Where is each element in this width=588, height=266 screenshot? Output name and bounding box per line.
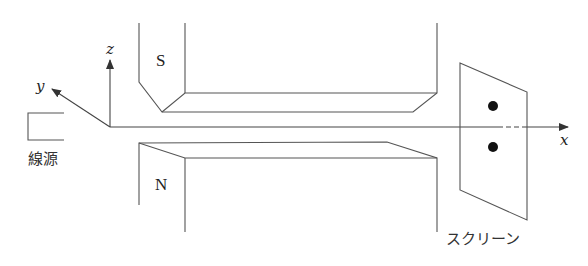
magnet-n-pole: [139, 142, 437, 232]
radiation-source: [28, 113, 64, 140]
magnet-deflection-diagram: z y x S N 線源 スクリーン: [0, 0, 588, 266]
s-pole-label: S: [156, 51, 165, 70]
z-axis-label: z: [105, 40, 114, 58]
n-pole-label: N: [155, 175, 167, 194]
x-axis-label: x: [560, 131, 569, 149]
screen: [460, 63, 527, 220]
y-axis-label: y: [35, 77, 45, 95]
screen-label: スクリーン: [446, 230, 520, 248]
y-axis: [52, 89, 110, 127]
spot-upper: [488, 101, 498, 111]
source-label: 線源: [28, 150, 58, 168]
magnet-s-pole: [139, 23, 437, 112]
spot-lower: [488, 142, 498, 152]
